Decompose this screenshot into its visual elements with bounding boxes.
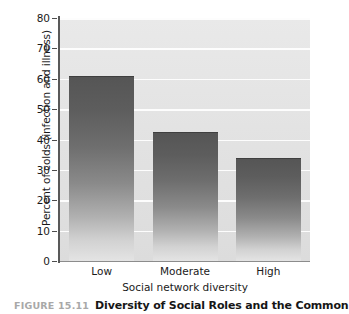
y-axis-tick-labels: 01020304050607080	[26, 18, 50, 261]
y-tick-label: 50	[26, 104, 50, 115]
caption-figure-number: FIGURE 15.11	[14, 300, 89, 311]
x-axis-baseline	[60, 261, 310, 263]
bar	[69, 76, 134, 261]
x-tick-label: Low	[91, 265, 112, 277]
y-tick-mark	[52, 18, 57, 19]
y-tick-label: 10	[26, 225, 50, 236]
y-tick-label: 0	[26, 256, 50, 267]
y-tick-mark	[52, 261, 57, 262]
y-tick-mark	[52, 231, 57, 232]
y-tick-label: 30	[26, 165, 50, 176]
x-tick-label: Moderate	[160, 265, 210, 277]
bar	[236, 158, 301, 261]
y-tick-mark	[52, 79, 57, 80]
x-tick-label: High	[256, 265, 280, 277]
y-tick-label: 20	[26, 195, 50, 206]
y-tick-mark	[52, 200, 57, 201]
y-tick-mark	[52, 48, 57, 49]
y-tick-label: 60	[26, 74, 50, 85]
gridline	[60, 18, 310, 20]
y-tick-mark	[52, 140, 57, 141]
x-axis-title: Social network diversity	[60, 281, 310, 293]
gridline	[60, 48, 310, 50]
caption-title: Diversity of Social Roles and the Common	[95, 299, 348, 312]
figure-caption: FIGURE 15.11 Diversity of Social Roles a…	[0, 296, 321, 314]
y-tick-label: 70	[26, 43, 50, 54]
y-tick-mark	[52, 109, 57, 110]
y-tick-label: 40	[26, 134, 50, 145]
x-axis-tick-labels: LowModerateHigh	[60, 265, 310, 281]
bar	[153, 132, 218, 261]
y-tick-label: 80	[26, 13, 50, 24]
y-tick-mark	[52, 170, 57, 171]
plot-area	[60, 18, 310, 261]
